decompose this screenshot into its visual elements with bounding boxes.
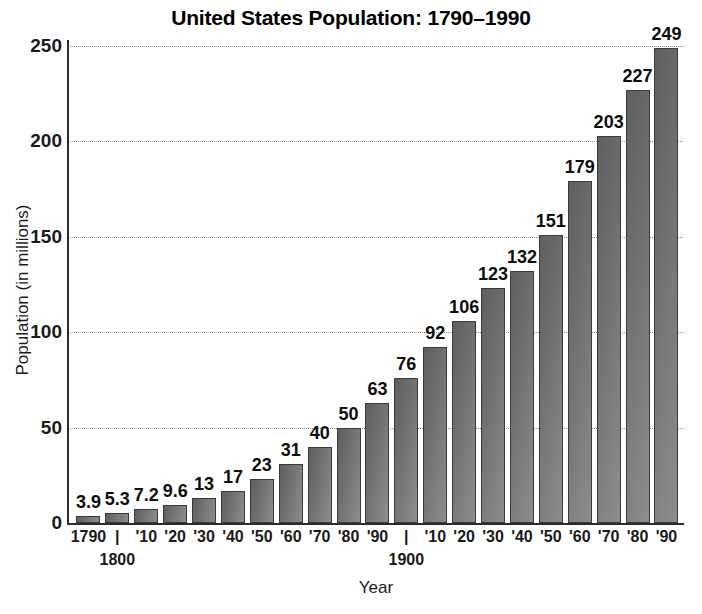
x-tick-label: '30	[193, 528, 215, 546]
bar	[221, 491, 245, 523]
bar	[105, 513, 129, 523]
bar-value-label: 17	[223, 467, 243, 488]
bar-value-label: 7.2	[134, 485, 159, 506]
bar-value-label: 63	[367, 379, 387, 400]
bar	[365, 403, 389, 523]
bar	[279, 464, 303, 523]
bar	[626, 90, 650, 523]
bar-value-label: 13	[194, 474, 214, 495]
x-tick-label: '20	[453, 528, 475, 546]
bar-chart: United States Population: 1790–1990 0501…	[0, 0, 702, 614]
x-tick-label: '20	[164, 528, 186, 546]
bar	[539, 235, 563, 523]
x-tick-label: '60	[569, 528, 591, 546]
x-tick-label: '40	[222, 528, 244, 546]
bars-layer: 3.917905.3|18007.2'109.6'2013'3017'4023'…	[0, 0, 702, 614]
bar-value-label: 151	[536, 211, 566, 232]
bar	[654, 48, 678, 523]
x-tick-sublabel: 1800	[100, 551, 136, 569]
bar	[250, 479, 274, 523]
x-tick-label: '40	[511, 528, 533, 546]
bar	[481, 288, 505, 523]
x-tick-label: '10	[424, 528, 446, 546]
x-tick-label: |	[115, 528, 119, 546]
x-axis-title: Year	[0, 578, 702, 598]
x-tick-label: '80	[338, 528, 360, 546]
x-tick-label: '50	[540, 528, 562, 546]
bar-value-label: 227	[623, 66, 653, 87]
x-tick-label: '50	[251, 528, 273, 546]
bar	[192, 498, 216, 523]
bar-value-label: 179	[565, 157, 595, 178]
x-tick-label: |	[404, 528, 408, 546]
x-tick-label: '90	[656, 528, 678, 546]
x-tick-label: '30	[482, 528, 504, 546]
bar-value-label: 40	[310, 423, 330, 444]
x-tick-label: '60	[280, 528, 302, 546]
bar-value-label: 123	[478, 264, 508, 285]
bar-value-label: 9.6	[163, 481, 188, 502]
bar	[134, 509, 158, 523]
bar-value-label: 132	[507, 247, 537, 268]
bar	[510, 271, 534, 523]
bar	[423, 347, 447, 523]
bar-value-label: 249	[651, 24, 681, 45]
x-tick-label: '70	[309, 528, 331, 546]
x-tick-label: '80	[627, 528, 649, 546]
bar	[452, 321, 476, 523]
bar	[163, 505, 187, 523]
x-tick-sublabel: 1900	[389, 551, 425, 569]
bar-value-label: 92	[425, 323, 445, 344]
x-tick-label: '70	[598, 528, 620, 546]
bar-value-label: 76	[396, 354, 416, 375]
bar-value-label: 50	[339, 404, 359, 425]
x-axis-title-text: Year	[359, 578, 393, 598]
bar	[76, 516, 100, 523]
bar-value-label: 5.3	[105, 489, 130, 510]
bar-value-label: 106	[449, 297, 479, 318]
bar	[597, 136, 621, 523]
x-tick-label: '10	[135, 528, 157, 546]
bar-value-label: 3.9	[76, 492, 101, 513]
bar	[568, 181, 592, 523]
x-tick-label: '90	[367, 528, 389, 546]
bar-value-label: 31	[281, 440, 301, 461]
bar-value-label: 203	[594, 112, 624, 133]
bar	[337, 428, 361, 523]
bar	[394, 378, 418, 523]
x-tick-label: 1790	[71, 528, 107, 546]
bar	[308, 447, 332, 523]
bar-value-label: 23	[252, 455, 272, 476]
